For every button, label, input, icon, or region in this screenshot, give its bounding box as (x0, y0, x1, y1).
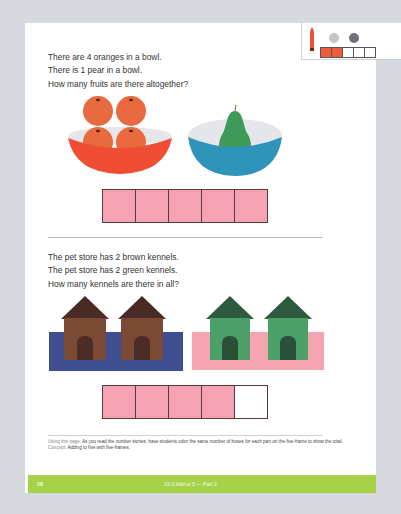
story-line: There are 4 oranges in a bowl. (48, 51, 188, 64)
oranges-in-bowl-illustration (65, 93, 175, 175)
brown-kennels-illustration (49, 296, 185, 372)
page-footer: 58 10-2 Add to 5 — Part 2 (28, 475, 376, 493)
problem1-story: There are 4 oranges in a bowl. There is … (48, 51, 188, 91)
page-number: 58 (37, 481, 43, 487)
problem2-story: The pet store has 2 brown kennels. The p… (48, 251, 179, 291)
five-frame-cell[interactable] (169, 386, 202, 418)
light-counter-icon (329, 33, 339, 43)
pear-in-bowl-illustration (185, 105, 285, 177)
problem1-five-frame[interactable] (102, 189, 268, 223)
five-frame-cell[interactable] (103, 386, 136, 418)
story-line: How many fruits are there altogether? (48, 78, 188, 91)
five-frame-cell[interactable] (136, 386, 169, 418)
concept-text: Adding to five with five-frames. (67, 445, 130, 450)
problem2-five-frame[interactable] (102, 385, 268, 419)
five-frame-cell[interactable] (136, 190, 169, 222)
lesson-title: 10-2 Add to 5 — Part 2 (164, 481, 217, 487)
five-frame-cell[interactable] (202, 190, 235, 222)
green-kennels-illustration (192, 296, 328, 372)
mini-five-frame-icon (320, 47, 376, 58)
story-line: The pet store has 2 green kennels. (48, 264, 179, 277)
dark-counter-icon (349, 33, 359, 43)
crayon-icon (310, 31, 314, 51)
worksheet-page: There are 4 oranges in a bowl. There is … (25, 23, 376, 493)
concept-lead: Concept: (48, 445, 66, 450)
five-frame-cell[interactable] (235, 190, 267, 222)
note-text: As you read the number stories, have stu… (82, 439, 343, 444)
section-divider (48, 237, 323, 238)
five-frame-cell[interactable] (202, 386, 235, 418)
notes-divider (48, 435, 323, 436)
note-lead: Using this page: (48, 439, 81, 444)
five-frame-cell[interactable] (235, 386, 267, 418)
story-line: How many kennels are there in all? (48, 278, 179, 291)
teacher-note: Using this page: As you read the number … (48, 439, 358, 451)
materials-legend (301, 23, 401, 60)
five-frame-cell[interactable] (169, 190, 202, 222)
story-line: There is 1 pear in a bowl. (48, 64, 188, 77)
five-frame-cell[interactable] (103, 190, 136, 222)
story-line: The pet store has 2 brown kennels. (48, 251, 179, 264)
